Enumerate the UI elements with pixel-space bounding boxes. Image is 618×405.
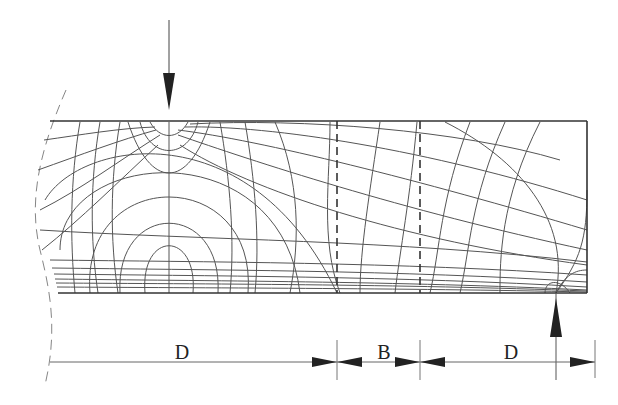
beam-stress-diagram: D B D bbox=[0, 0, 618, 405]
support-arrow bbox=[550, 293, 562, 380]
label-d-left: D bbox=[175, 341, 189, 363]
label-d-right: D bbox=[504, 341, 518, 363]
stress-trajectories bbox=[38, 122, 587, 293]
load-arrow bbox=[163, 20, 175, 110]
label-b: B bbox=[377, 341, 390, 363]
